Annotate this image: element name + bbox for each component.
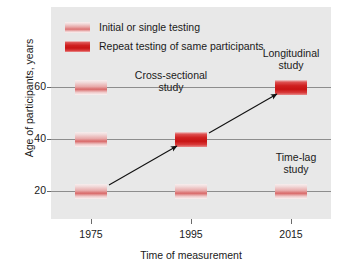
annotation-time-lag-line2: study — [246, 164, 346, 176]
marker-initial-2015-20 — [275, 184, 307, 199]
y-tick-mark-40 — [47, 139, 51, 140]
annotation-longitudinal-line1: Longitudinal — [236, 48, 346, 60]
x-tick-mark-1995 — [191, 219, 192, 224]
legend-item-initial: Initial or single testing — [65, 21, 200, 33]
y-axis-title: Age of participants, years — [23, 13, 35, 183]
y-tick-label-20: 20 — [22, 185, 46, 196]
x-tick-mark-1975 — [91, 219, 92, 224]
marker-initial-1975-60 — [75, 80, 107, 95]
x-axis-title: Time of measurement — [51, 249, 331, 261]
marker-initial-1975-40 — [75, 132, 107, 147]
y-tick-mark-20 — [47, 191, 51, 192]
annotation-longitudinal: Longitudinal study — [236, 48, 346, 72]
figure-root: Initial or single testing Repeat testing… — [0, 0, 358, 271]
annotation-cross-sectional-line2: study — [106, 82, 236, 94]
annotation-time-lag-line1: Time-lag — [246, 152, 346, 164]
marker-repeat-2015-60 — [275, 80, 307, 95]
legend-item-repeat: Repeat testing of same participants — [65, 40, 264, 52]
x-tick-label-1975: 1975 — [66, 228, 116, 240]
annotation-cross-sectional-line1: Cross-sectional — [106, 70, 236, 82]
x-tick-mark-2015 — [291, 219, 292, 224]
x-tick-label-1995: 1995 — [166, 228, 216, 240]
annotation-longitudinal-line2: study — [236, 60, 346, 72]
legend-swatch-initial-icon — [65, 22, 90, 33]
x-tick-label-2015: 2015 — [266, 228, 316, 240]
marker-initial-1975-20 — [75, 184, 107, 199]
marker-initial-1995-20 — [175, 184, 207, 199]
plot-area: Initial or single testing Repeat testing… — [51, 7, 331, 219]
y-tick-mark-60 — [47, 87, 51, 88]
legend-label-initial: Initial or single testing — [99, 21, 200, 33]
annotation-cross-sectional: Cross-sectional study — [106, 70, 236, 94]
legend-swatch-repeat-icon — [65, 41, 90, 52]
annotation-time-lag: Time-lag study — [246, 152, 346, 176]
marker-repeat-1995-40 — [175, 132, 207, 147]
